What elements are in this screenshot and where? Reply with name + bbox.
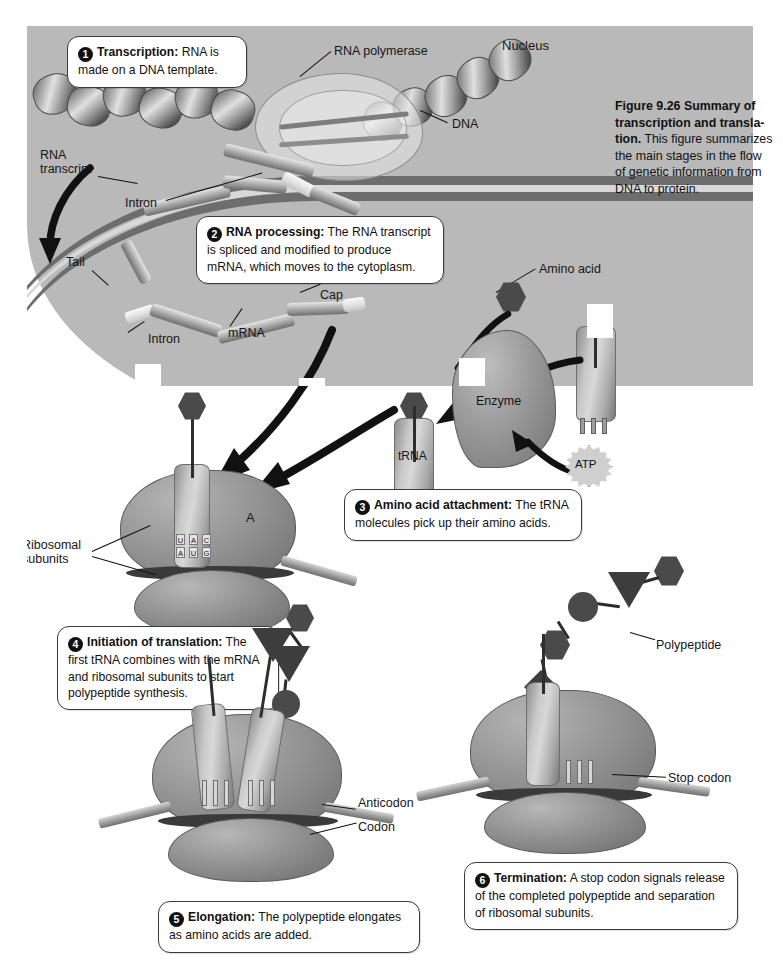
step-number-2: 2 (207, 227, 222, 242)
mrna-through-ribosome (416, 776, 490, 801)
nuclear-pore (299, 378, 325, 386)
ribosome-small-subunit (484, 792, 646, 854)
label-a-site: A (246, 510, 255, 525)
label-nucleus: Nucleus (502, 39, 549, 54)
nuclear-pore (135, 364, 161, 386)
label-dna: DNA (452, 117, 478, 131)
figure-number: Figure 9.26 (615, 99, 680, 113)
mrna-through-ribosome (98, 801, 172, 829)
anticodon-letter: C (202, 534, 211, 545)
label-amino-acid: Amino acid (539, 262, 601, 276)
callout-step-1[interactable]: 1Transcription: RNA is made on a DNA tem… (67, 36, 247, 88)
step-title-6: Termination: (494, 871, 567, 885)
step-title-1: Transcription: (97, 45, 178, 59)
label-rna-transcript-line1: RNA (40, 148, 66, 162)
label-ribosomal-subunits-line2: subunits (22, 552, 69, 566)
label-intron-bottom: Intron (148, 332, 180, 346)
callout-step-2[interactable]: 2RNA processing: The RNA transcript is s… (196, 216, 444, 284)
codon-letter: U (189, 547, 198, 558)
nuclear-pore (459, 358, 485, 386)
anticodon-letter: A (189, 534, 198, 545)
label-codon: Codon (358, 820, 395, 834)
label-cap: Cap (320, 288, 343, 302)
callout-step-6[interactable]: 6Termination: A stop codon signals relea… (464, 862, 738, 930)
page-left-margin (0, 0, 27, 969)
polypeptide-residue-circle (568, 592, 598, 622)
step-number-4: 4 (68, 637, 83, 652)
anticodon-stripes (202, 780, 276, 810)
label-ribosomal-subunits-line1: Ribosomal (22, 538, 81, 552)
step-number-5: 5 (169, 912, 184, 927)
polypeptide-residue-hexagon (654, 556, 684, 586)
polypeptide-bond (596, 602, 620, 608)
figure-caption: Figure 9.26 Summary of transcription and… (615, 98, 775, 198)
nuclear-pore (587, 304, 613, 338)
transcription-bubble-inner (279, 90, 407, 166)
codon-letter: G (202, 547, 211, 558)
codon-letter: A (176, 547, 185, 558)
label-rna-transcript: RNA transcript (40, 148, 110, 177)
label-rna-transcript-line2: transcript (40, 162, 91, 176)
label-tail: Tail (66, 255, 85, 269)
step-title-2: RNA processing: (226, 225, 324, 239)
step-number-6: 6 (475, 873, 490, 888)
label-atp: ATP (575, 458, 597, 470)
stop-codon-stripes (566, 760, 612, 788)
label-intron-top: Intron (125, 196, 157, 210)
label-polypeptide: Polypeptide (656, 638, 721, 652)
polypeptide-residue-hexagon (286, 604, 314, 632)
figure-canvas: Nucleus RNA polymerase DNA RNA transcrip… (0, 0, 783, 969)
anticodon-letter: U (176, 534, 185, 545)
label-anticodon: Anticodon (358, 796, 414, 810)
polypeptide-residue-triangle (608, 572, 650, 608)
ribosome-small-subunit (168, 818, 334, 882)
label-rna-polymerase: RNA polymerase (334, 44, 428, 58)
trna-in-p-site (526, 682, 560, 786)
step-number-1: 1 (78, 47, 93, 62)
callout-step-5[interactable]: 5Elongation: The polypeptide elongates a… (158, 901, 420, 953)
mrna-ribbon (287, 301, 349, 316)
label-ribosomal-subunits: Ribosomal subunits (22, 538, 98, 567)
step-title-5: Elongation: (188, 910, 255, 924)
trna-in-p-site-stem (191, 418, 194, 478)
label-enzyme: Enzyme (476, 394, 521, 408)
label-stop-codon: Stop codon (668, 771, 731, 785)
trna-in-p-site-stem (542, 634, 545, 694)
